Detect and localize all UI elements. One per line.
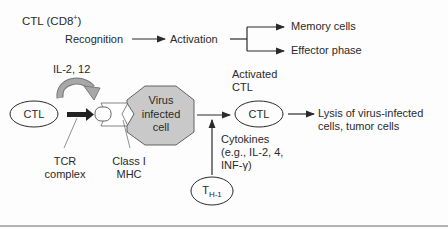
mhc-receptor-icon <box>95 103 128 126</box>
mhc-line2: MHC <box>104 168 154 181</box>
activated-line1: Activated <box>232 68 277 81</box>
effector-phase-label: Effector phase <box>291 44 362 57</box>
tcr-line2: complex <box>40 168 90 181</box>
tcr-complex-label: TCR complex <box>40 155 90 181</box>
memory-cells-label: Memory cells <box>291 20 356 33</box>
virus-label-line2: infected <box>135 108 187 122</box>
activated-line2: CTL <box>232 81 277 94</box>
ctl-left-label: CTL <box>10 108 58 121</box>
th1-label: TH-1 <box>192 184 232 201</box>
activated-ctl-label: Activated CTL <box>232 68 277 94</box>
tcr-binding-arrow <box>67 108 94 121</box>
il2-12-label: IL-2, 12 <box>53 63 90 76</box>
cytokines-label: Cytokines (e.g., IL-2, 4, INF-γ) <box>221 133 283 172</box>
class-i-mhc-label: Class I MHC <box>104 155 154 181</box>
cytokines-line2: (e.g., IL-2, 4, <box>221 146 283 159</box>
virus-label-line3: cell <box>135 121 187 135</box>
recognition-label: Recognition <box>65 33 123 46</box>
diagram-title: CTL (CD8+) <box>22 11 81 28</box>
lysis-label: Lysis of virus-infected cells, tumor cel… <box>318 107 423 133</box>
mhc-line1: Class I <box>104 155 154 168</box>
cytokines-line3: INF-γ) <box>221 159 283 172</box>
cytokines-line1: Cytokines <box>221 133 283 146</box>
activation-branch-arrows <box>230 27 284 51</box>
tcr-line1: TCR <box>40 155 90 168</box>
activation-label: Activation <box>170 33 218 46</box>
lysis-line2: cells, tumor cells <box>318 120 423 133</box>
ctl-right-label: CTL <box>235 108 283 121</box>
virus-infected-cell-label: Virus infected cell <box>135 94 187 135</box>
virus-label-line1: Virus <box>135 94 187 108</box>
tcr-leader-line <box>64 118 77 148</box>
curved-arrow-icon <box>60 81 100 100</box>
lysis-line1: Lysis of virus-infected <box>318 107 423 120</box>
